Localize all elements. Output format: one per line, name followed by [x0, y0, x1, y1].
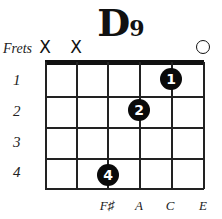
string-line-4: [139, 62, 141, 189]
fret-number-2: 2: [13, 103, 21, 120]
fret-line-4: [45, 188, 204, 190]
chord-suffix: 9: [129, 15, 144, 41]
string-line-1: [45, 62, 47, 189]
open-string-icon: [196, 40, 210, 54]
fret-number-4: 4: [13, 164, 21, 181]
fret-line-2: [45, 127, 204, 129]
nut: [45, 60, 204, 65]
fret-line-1: [45, 96, 204, 98]
note-label-string-4: A: [129, 198, 149, 214]
finger-dot-1: 1: [160, 68, 182, 90]
string-line-6: [203, 62, 205, 189]
finger-dot-4: 4: [97, 164, 119, 186]
note-label-string-5: C: [160, 198, 180, 214]
string-line-2: [76, 62, 78, 189]
fret-line-3: [45, 158, 204, 160]
chord-title: D9: [0, 0, 222, 45]
note-label-string-3: F♯: [97, 198, 117, 214]
chord-name: D: [97, 0, 129, 45]
finger-dot-2: 2: [128, 99, 150, 121]
muted-string-marker-1: X: [37, 37, 53, 57]
frets-label: Frets: [3, 41, 32, 57]
fret-number-3: 3: [13, 134, 21, 151]
muted-string-marker-2: X: [68, 37, 84, 57]
fret-number-1: 1: [13, 72, 21, 89]
note-label-string-6: E: [193, 198, 213, 214]
